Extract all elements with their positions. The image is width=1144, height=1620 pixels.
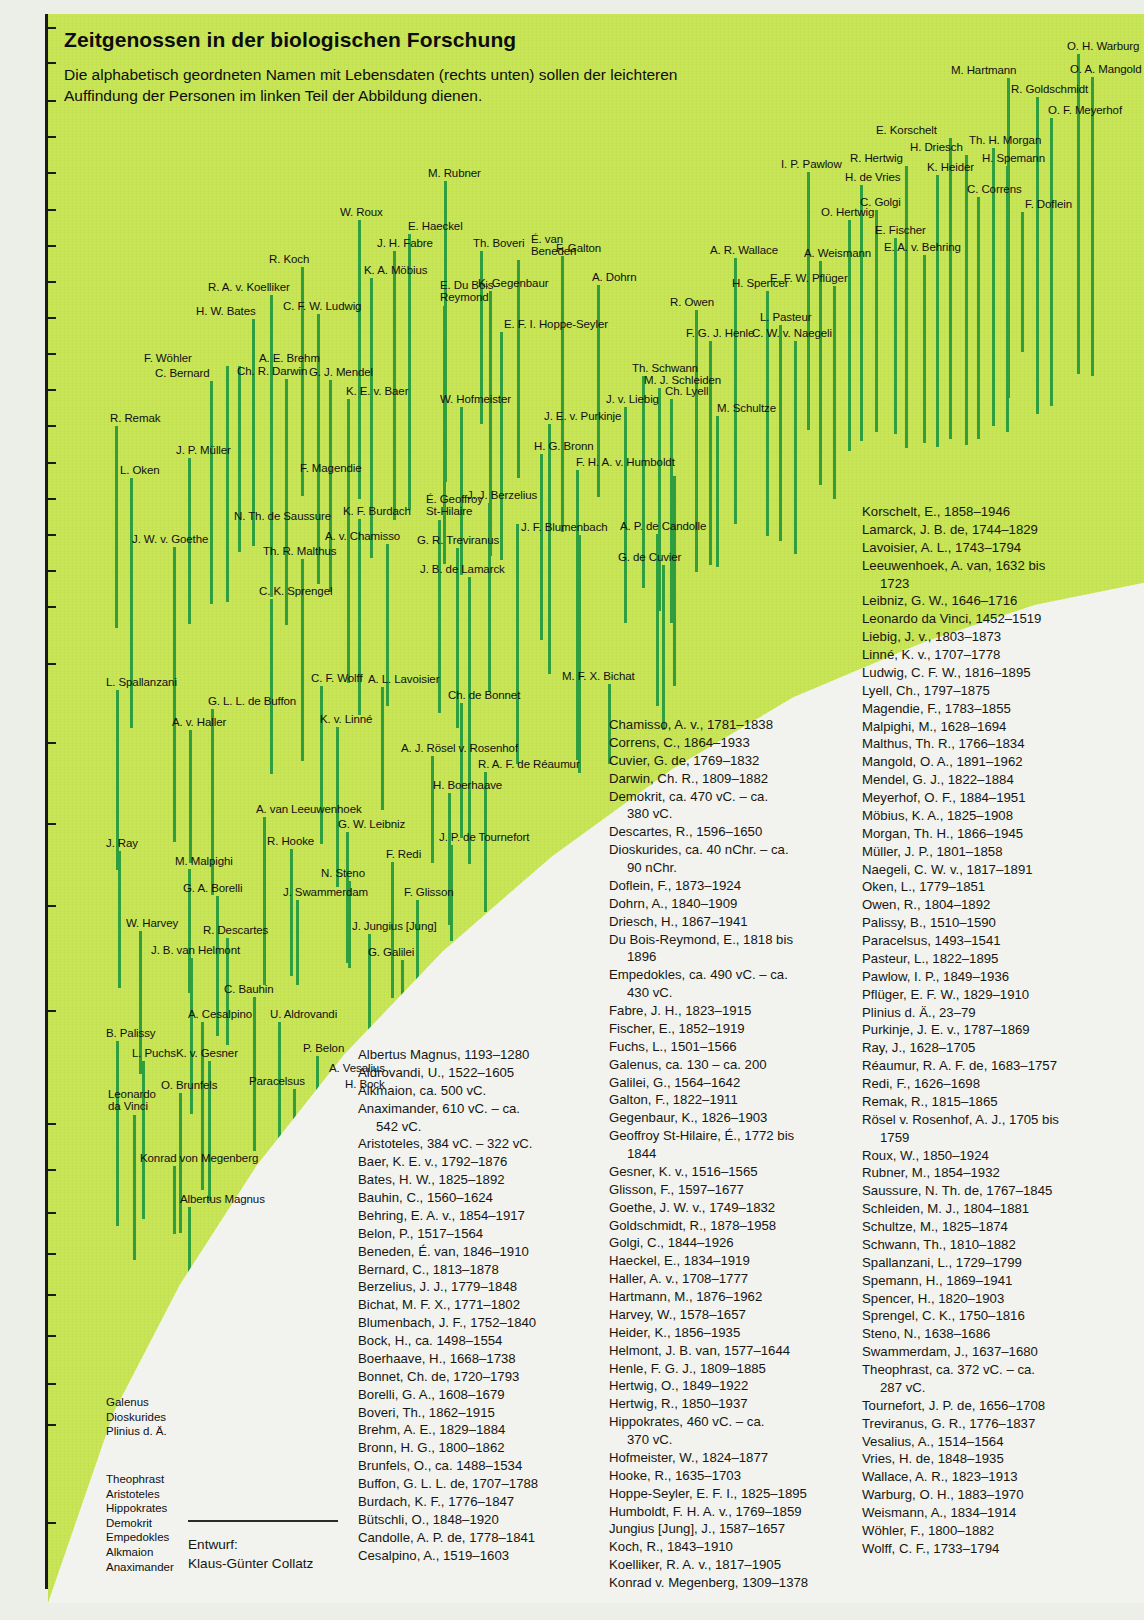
axis-tick	[45, 1010, 56, 1012]
index-entry: Treviranus, G. R., 1776–1837	[862, 1415, 1134, 1433]
lifespan-bar	[358, 519, 361, 715]
lifespan-bar-label: Ch. de Bonnet	[448, 690, 520, 702]
index-entry: Mendel, G. J., 1822–1884	[862, 771, 1134, 789]
lifespan-bar	[1021, 212, 1024, 352]
index-column-1: Albertus Magnus, 1193–1280Aldrovandi, U.…	[358, 1046, 603, 1564]
lifespan-bar-label: R. Koch	[269, 254, 309, 266]
axis-tick	[45, 209, 56, 211]
index-entry: Correns, C., 1864–1933	[609, 734, 859, 752]
index-entry: Swammerdam, J., 1637–1680	[862, 1343, 1134, 1361]
index-entry: Brehm, A. E., 1829–1884	[358, 1421, 603, 1439]
lifespan-bar-label: A. Dohrn	[592, 272, 637, 284]
index-entry: Réaumur, R. A. F. de, 1683–1757	[862, 1057, 1134, 1075]
lifespan-bar	[133, 1115, 136, 1260]
credit-label: Entwurf:	[188, 1535, 528, 1554]
lifespan-bar-label: Albertus Magnus	[180, 1194, 265, 1206]
lifespan-bar-label: R. Goldschmidt	[1011, 84, 1088, 96]
index-entry: Wöhler, F., 1800–1882	[862, 1522, 1134, 1540]
credit-block: Entwurf: Klaus-Günter Collatz	[188, 1520, 528, 1574]
lifespan-bar-label: M. Rubner	[428, 168, 481, 180]
index-column-2: Chamisso, A. v., 1781–1838Correns, C., 1…	[609, 716, 859, 1592]
index-entry: Hertwig, O., 1849–1922	[609, 1377, 859, 1395]
index-entry: Möbius, K. A., 1825–1908	[862, 807, 1134, 825]
index-entry: Weismann, A., 1834–1914	[862, 1504, 1134, 1522]
lifespan-bar	[1077, 54, 1080, 374]
index-entry: Galton, F., 1822–1911	[609, 1091, 859, 1109]
lifespan-bar	[794, 341, 797, 554]
ancient-name: Theophrast	[106, 1472, 174, 1487]
index-entry: Boerhaave, H., 1668–1738	[358, 1350, 603, 1368]
lifespan-bar-label: P. Belon	[303, 1043, 344, 1055]
index-entry: Bonnet, Ch. de, 1720–1793	[358, 1368, 603, 1386]
page-subtitle: Die alphabetisch geordneten Namen mit Le…	[64, 65, 704, 106]
index-entry: Borelli, G. A., 1608–1679	[358, 1386, 603, 1404]
ancient-name: Aristoteles	[106, 1487, 174, 1502]
lifespan-bar-label: R. Owen	[670, 297, 714, 309]
index-entry: Aldrovandi, U., 1522–1605	[358, 1064, 603, 1082]
lifespan-bar-label: J. F. Blumenbach	[521, 522, 608, 534]
axis-tick	[45, 172, 56, 174]
index-entry: Purkinje, J. E. v., 1787–1869	[862, 1021, 1134, 1039]
lifespan-bar	[819, 261, 822, 485]
lifespan-bar	[358, 220, 361, 499]
index-entry: Harvey, W., 1578–1657	[609, 1306, 859, 1324]
lifespan-bar	[460, 407, 463, 575]
lifespan-bar-label: E. F. W. Pflüger	[770, 273, 848, 285]
lifespan-bar-label: E. F. I. Hoppe-Seyler	[504, 319, 608, 331]
lifespan-bar-label: R. Hertwig	[850, 153, 903, 165]
index-entry: Hippokrates, 460 vC. – ca.370 vC.	[609, 1413, 859, 1449]
index-entry: Brunfels, O., ca. 1488–1534	[358, 1457, 603, 1475]
lifespan-bar-label: L. Puchs	[132, 1048, 176, 1060]
ancient-name: Hippokrates	[106, 1501, 174, 1516]
index-entry: Konrad v. Megenberg, 1309–1378	[609, 1574, 859, 1592]
lifespan-bar	[130, 478, 133, 728]
lifespan-bar-label: K. v. Linné	[320, 714, 372, 726]
axis-tick	[45, 1294, 56, 1296]
index-entry: Berzelius, J. J., 1779–1848	[358, 1278, 603, 1296]
lifespan-bar	[488, 503, 491, 692]
lifespan-bar	[894, 238, 897, 434]
year-axis: 7060195040302010190090807060185040302010…	[0, 0, 48, 1620]
lifespan-bar-label: J. J. Berzelius	[467, 490, 537, 502]
index-entry: Wallace, A. R., 1823–1913	[862, 1468, 1134, 1486]
lifespan-bar-label: B. Palissy	[106, 1028, 156, 1040]
index-entry: Helmont, J. B. van, 1577–1644	[609, 1342, 859, 1360]
ancient-name: Empedokles	[106, 1530, 174, 1545]
index-entry: Darwin, Ch. R., 1809–1882	[609, 770, 859, 788]
lifespan-bar-label: F. Glisson	[404, 887, 454, 899]
lifespan-bar	[118, 851, 121, 988]
lifespan-bar-label: Konrad von Megenberg	[140, 1153, 258, 1165]
lifespan-bar	[290, 849, 293, 976]
lifespan-bar-label: J. H. Fabre	[377, 238, 433, 250]
lifespan-bar-label: M. Schultze	[717, 403, 776, 415]
lifespan-bar	[296, 900, 299, 985]
lifespan-bar-label: J. B. van Helmont	[151, 945, 240, 957]
index-entry: Saussure, N. Th. de, 1767–1845	[862, 1182, 1134, 1200]
index-entry: Lyell, Ch., 1797–1875	[862, 682, 1134, 700]
lifespan-bar	[860, 185, 863, 441]
lifespan-bar-label: U. Aldrovandi	[270, 1009, 337, 1021]
lifespan-bar-label: G. R. Treviranus	[417, 535, 499, 547]
lifespan-bar-label: J. P. de Tournefort	[439, 832, 529, 844]
lifespan-bar-label: M. J. Schleiden	[644, 375, 721, 387]
ancient-name: Alkmaion	[106, 1545, 174, 1560]
ancient-name: Plinius d. Ä.	[106, 1424, 167, 1439]
index-entry: Cuvier, G. de, 1769–1832	[609, 752, 859, 770]
index-entry: Roux, W., 1850–1924	[862, 1147, 1134, 1165]
index-entry: Malpighi, M., 1628–1694	[862, 718, 1134, 736]
index-entry: Hofmeister, W., 1824–1877	[609, 1449, 859, 1467]
lifespan-bar	[468, 577, 471, 864]
lifespan-bar-label: J. Swammerdam	[283, 887, 368, 899]
index-entry: Leonardo da Vinci, 1452–1519	[862, 610, 1134, 628]
page-title: Zeitgenossen in der biologischen Forschu…	[64, 28, 704, 52]
lifespan-bar-label: G. Galilei	[368, 947, 414, 959]
lifespan-bar-label: R. Hooke	[267, 836, 314, 848]
lifespan-bar-label: J. W. v. Goethe	[132, 534, 208, 546]
index-entry: Koch, R., 1843–1910	[609, 1538, 859, 1556]
index-entry: Müller, J. P., 1801–1858	[862, 843, 1134, 861]
lifespan-bar-label: Leonardoda Vinci	[108, 1089, 156, 1112]
index-entry: Ludwig, C. F. W., 1816–1895	[862, 664, 1134, 682]
index-entry: Hartmann, M., 1876–1962	[609, 1288, 859, 1306]
axis-tick	[45, 27, 56, 29]
lifespan-bar	[115, 426, 118, 628]
